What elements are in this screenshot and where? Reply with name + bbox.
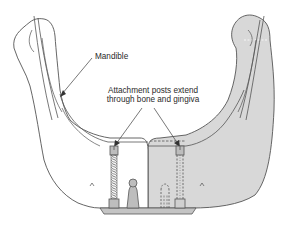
mandible-diagram xyxy=(0,0,286,228)
ball-abutment-center xyxy=(127,179,139,208)
attachment-posts-label: Attachment posts extend through bone and… xyxy=(98,86,208,104)
mandible-label: Mandible xyxy=(95,52,128,61)
attachment-posts-label-line1: Attachment posts extend xyxy=(98,86,208,95)
connector-bar-base xyxy=(100,208,196,214)
mandible-left-outline xyxy=(14,19,148,208)
mandible-leader xyxy=(62,58,92,94)
mandible-right-half xyxy=(148,15,274,208)
attachment-posts-label-line2: through bone and gingiva xyxy=(98,95,208,104)
